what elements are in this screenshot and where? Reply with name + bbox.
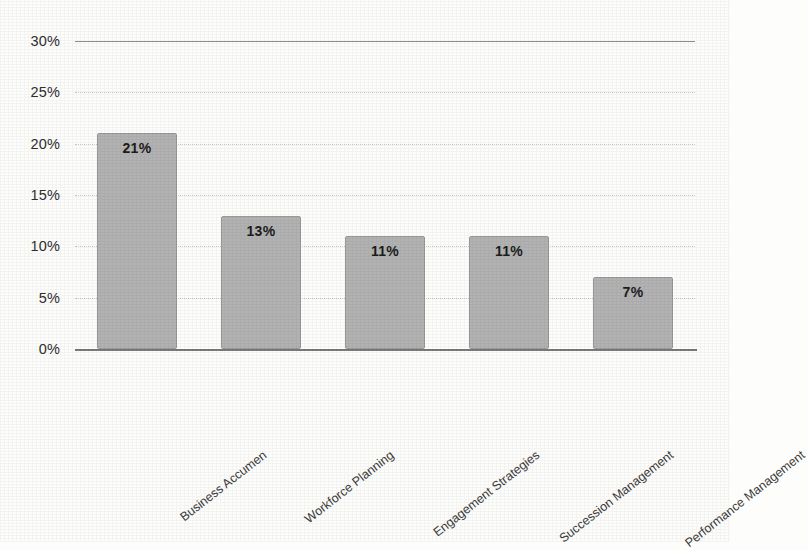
- y-tick-label: 30%: [14, 33, 60, 49]
- bar[interactable]: 21%: [97, 133, 177, 349]
- axis-baseline: [75, 349, 697, 351]
- y-tick-label: 0%: [14, 341, 60, 357]
- y-tick-label: 5%: [14, 290, 60, 306]
- x-axis-category-labels: Business AccumenWorkforce PlanningEngage…: [75, 352, 695, 502]
- bar-value-label: 7%: [594, 284, 672, 300]
- bar-rect: 7%: [593, 277, 673, 349]
- y-tick-label: 15%: [14, 187, 60, 203]
- x-tick-label: Performance Management: [682, 448, 807, 550]
- bar-rect: 13%: [221, 216, 301, 349]
- plot-area: 21%13%11%11%7%: [75, 41, 695, 349]
- bar-rect: 11%: [345, 236, 425, 349]
- x-tick-label: Engagement Strategies: [431, 448, 543, 539]
- bar-rect: 11%: [469, 236, 549, 349]
- y-tick-label: 10%: [14, 238, 60, 254]
- y-tick-label: 20%: [14, 136, 60, 152]
- bar[interactable]: 7%: [593, 277, 673, 349]
- bar-value-label: 11%: [470, 243, 548, 259]
- x-tick-label: Succession Management: [557, 448, 676, 545]
- y-axis-tick-labels: 0%5%10%15%20%25%30%: [14, 41, 60, 349]
- bar[interactable]: 11%: [345, 236, 425, 349]
- bar[interactable]: 13%: [221, 216, 301, 349]
- bar-value-label: 21%: [98, 140, 176, 156]
- x-tick-label: Workforce Planning: [302, 448, 396, 526]
- bar-rect: 21%: [97, 133, 177, 349]
- bar-series: 21%13%11%11%7%: [75, 41, 695, 349]
- bar-value-label: 11%: [346, 243, 424, 259]
- y-tick-label: 25%: [14, 84, 60, 100]
- bar-value-label: 13%: [222, 223, 300, 239]
- x-tick-label: Business Accumen: [177, 448, 269, 524]
- bar[interactable]: 11%: [469, 236, 549, 349]
